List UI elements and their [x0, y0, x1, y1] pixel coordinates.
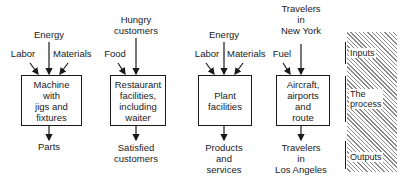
input-labor-1: Labor [6, 49, 40, 59]
legend-inputs: Inputs [349, 48, 376, 58]
process-label: Aircraft, airports and route [287, 79, 320, 123]
legend-outputs: Outputs [349, 152, 383, 162]
input-labor-3: Labor [190, 49, 224, 59]
process-box-plant: Plant facilities [198, 75, 252, 126]
input-fuel: Fuel [270, 49, 294, 59]
input-energy-1: Energy [34, 30, 64, 40]
input-hungry-customers: Hungry customers [111, 14, 161, 36]
process-box-restaurant: Restaurant facilities, including waiter [110, 75, 166, 126]
input-materials-3: Materials [227, 49, 265, 59]
process-box-aircraft: Aircraft, airports and route [276, 75, 330, 126]
legend-process: The process [349, 89, 383, 109]
input-food: Food [103, 49, 127, 59]
output-travelers-los-angeles: Travelers in Los Angeles [271, 142, 331, 175]
process-label: Plant facilities [208, 90, 242, 112]
input-materials-1: Materials [53, 49, 91, 59]
output-products-services: Products and services [199, 142, 249, 175]
output-satisfied-customers: Satisfied customers [111, 142, 161, 164]
output-parts: Parts [34, 142, 64, 152]
legend-panel: Inputs The process Outputs [347, 32, 397, 172]
process-label: Restaurant facilities, including waiter [115, 79, 161, 123]
input-travelers-new-york: Travelers in New York [276, 3, 326, 36]
input-energy-3: Energy [209, 30, 239, 40]
process-label: Machine with jigs and fixtures [34, 79, 70, 123]
process-box-machine: Machine with jigs and fixtures [21, 75, 82, 126]
